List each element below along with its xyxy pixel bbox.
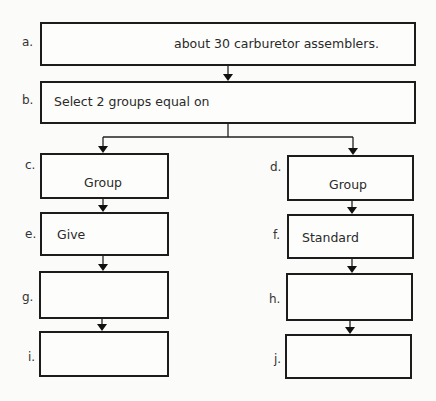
arrow-h-j-icon <box>345 327 355 334</box>
arrow-f-h-icon <box>347 266 357 273</box>
box-b-label: b. <box>22 93 33 107</box>
box-d-label: d. <box>270 160 281 174</box>
box-i <box>39 331 169 377</box>
box-d: Group <box>287 155 414 201</box>
arrow-e-g-icon <box>98 264 108 271</box>
arrow-d-f-icon <box>347 207 357 214</box>
arrow-g-i-icon <box>97 324 107 331</box>
box-j-label: j. <box>274 352 281 366</box>
box-a-text: about 30 carburetor assemblers. <box>174 36 379 51</box>
box-f-text: Standard <box>302 230 359 245</box>
box-h-label: h. <box>269 292 280 306</box>
box-e-text: Give <box>57 227 85 242</box>
arrow-c-e-icon <box>98 205 108 212</box>
box-j <box>285 334 412 379</box>
box-f-label: f. <box>273 228 280 242</box>
box-a: about 30 carburetor assemblers. <box>40 22 416 66</box>
box-e-label: e. <box>25 227 36 241</box>
box-f: Standard <box>287 214 414 259</box>
box-h <box>286 273 413 321</box>
box-c-text: Group <box>84 175 122 190</box>
box-b-text: Select 2 groups equal on <box>54 94 209 109</box>
arrow-b-c-icon <box>98 146 108 153</box>
box-i-label: i. <box>28 350 35 364</box>
box-g-label: g. <box>22 290 33 304</box>
box-c: Group <box>40 153 169 199</box>
box-a-label: a. <box>22 35 33 49</box>
box-d-text: Group <box>329 177 367 192</box>
box-g <box>39 271 169 319</box>
arrow-b-d-icon <box>348 148 358 155</box>
arrow-a-b-icon <box>223 74 233 81</box>
box-b: Select 2 groups equal on <box>40 81 416 124</box>
box-e: Give <box>40 212 169 256</box>
box-c-label: c. <box>25 158 35 172</box>
